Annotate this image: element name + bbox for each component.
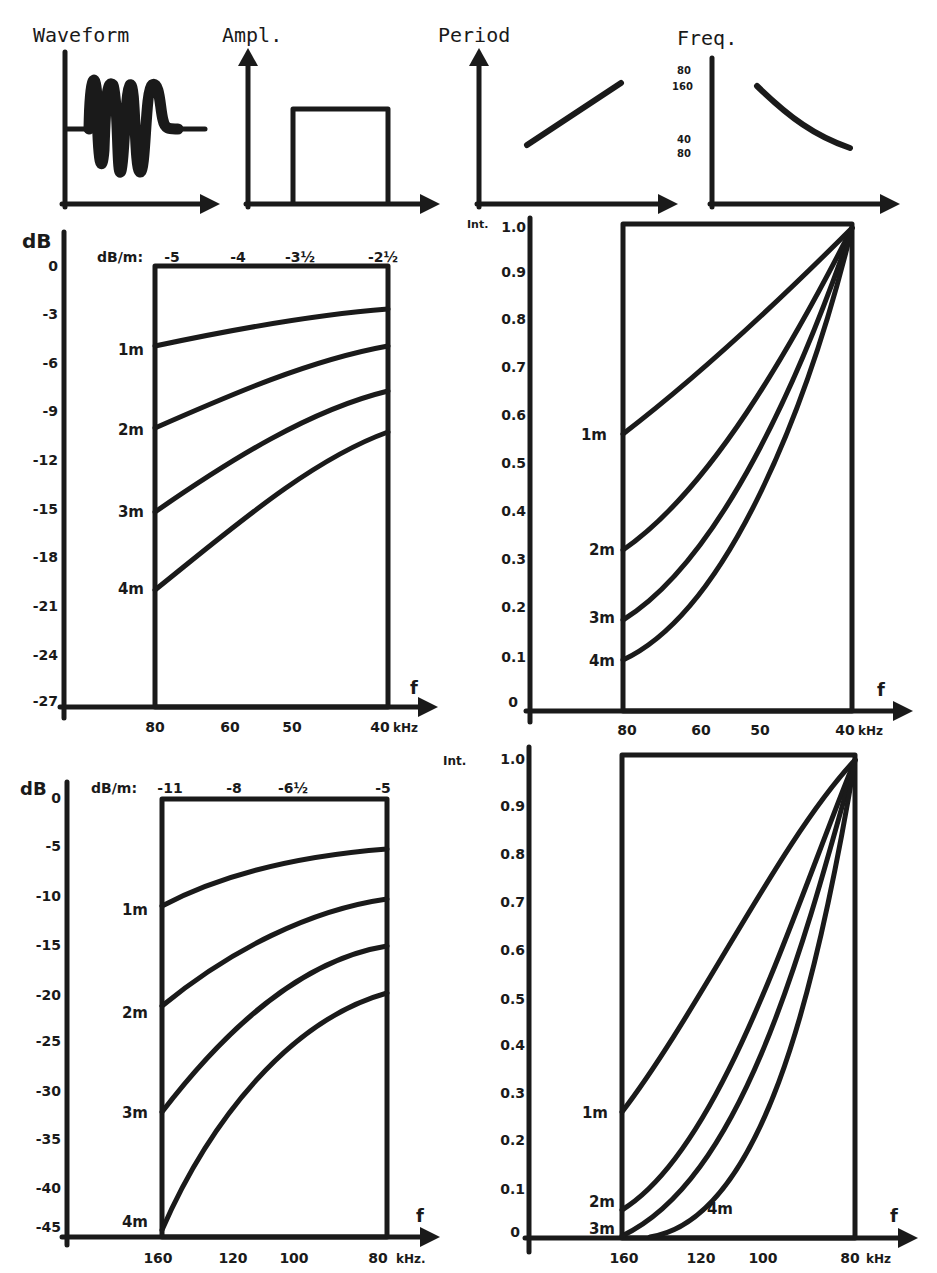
svg-text:4m: 4m [122,1213,148,1231]
svg-text:1m: 1m [582,1104,608,1122]
freq-tick-lower-2: 80 [677,148,691,159]
db2-curve-4m [162,993,387,1230]
period-sketch: Period [438,23,678,214]
svg-text:0.5: 0.5 [501,455,526,471]
svg-text:-27: -27 [33,693,58,709]
svg-text:-3: -3 [42,306,58,322]
svg-text:0: 0 [51,790,61,806]
db1-curve-3m [155,391,388,512]
svg-text:0.7: 0.7 [500,894,525,910]
svg-text:0.6: 0.6 [500,942,525,958]
svg-text:0.4: 0.4 [500,1037,525,1053]
svg-text:-35: -35 [36,1131,61,1147]
svg-text:0.4: 0.4 [501,503,526,519]
svg-text:120: 120 [686,1250,715,1266]
db2-xunit: kHz. [396,1252,426,1266]
int1-curve-1m [623,228,852,434]
svg-text:-20: -20 [36,987,62,1003]
db1-top-axis-label: dB/m: [97,249,143,265]
int1-curve-2m [623,228,852,550]
db-chart-80-40: dB 0 -3 -6 -9 -12 -15 -18 -21 -24 -27 dB… [22,229,438,735]
svg-text:-11: -11 [157,780,182,796]
db2-curve-3m [162,946,387,1112]
svg-text:0.2: 0.2 [501,599,526,615]
freq-curve [757,86,850,148]
db-chart-160-80: dB 0 -5 -10 -15 -20 -25 -30 -35 -40 -45 … [20,778,440,1266]
svg-text:2m: 2m [122,1004,148,1022]
int1-xunit: kHz [858,724,883,738]
svg-text:0.1: 0.1 [500,1181,525,1197]
period-y-arrow-icon [469,48,489,66]
svg-text:-5: -5 [164,249,180,265]
ampl-envelope [293,109,388,204]
svg-text:160: 160 [609,1250,638,1266]
int2-xticks: 160 120 100 80 [609,1250,860,1266]
int-chart-80-40: Int. 1.0 0.9 0.8 0.7 0.6 0.5 0.4 0.3 0.2… [467,218,913,738]
svg-text:80: 80 [617,722,637,738]
int2-curve-labels: 1m 2m 3m 4m [582,1104,733,1238]
ampl-y-arrow-icon [238,48,258,66]
period-title: Period [438,23,510,47]
svg-text:1m: 1m [581,426,607,444]
svg-text:50: 50 [282,719,302,735]
int1-xlabel: f [877,679,885,700]
svg-text:2m: 2m [589,541,615,559]
amplitude-sketch: Ampl. [222,23,440,214]
svg-text:80: 80 [840,1250,860,1266]
svg-text:3m: 3m [589,609,615,627]
svg-text:-24: -24 [33,647,59,663]
svg-text:0: 0 [510,1224,520,1240]
svg-text:-6: -6 [42,355,58,371]
svg-text:-12: -12 [33,452,58,468]
svg-text:0.9: 0.9 [500,798,525,814]
waveform-x-arrow-icon [200,194,220,214]
figure-canvas: Waveform Ampl. Period Freq. 80 160 40 80 [0,0,937,1273]
svg-text:4m: 4m [589,652,615,670]
int2-xunit: kHz [866,1252,891,1266]
period-x-arrow-icon [658,194,678,214]
db1-top-ticks: -5 -4 -3½ -2½ [164,249,398,265]
svg-text:-2½: -2½ [368,249,398,265]
svg-text:4m: 4m [707,1200,733,1218]
waveform-signal [89,80,178,172]
freq-title: Freq. [677,26,737,50]
db2-yticks: 0 -5 -10 -15 -20 -25 -30 -35 -40 -45 [36,790,62,1235]
svg-text:0.9: 0.9 [501,264,526,280]
int1-curve-labels: 1m 2m 3m 4m [581,426,615,670]
period-line [527,83,621,145]
int2-xlabel: f [890,1205,898,1226]
db1-xunit: kHz [393,721,418,735]
svg-text:0.7: 0.7 [501,359,526,375]
svg-text:0.3: 0.3 [501,551,526,567]
svg-text:100: 100 [279,1250,308,1266]
freq-tick-upper-1: 80 [677,65,691,76]
svg-text:2m: 2m [589,1193,615,1211]
db1-xlabel: f [410,677,418,698]
ampl-title: Ampl. [222,23,282,47]
svg-text:1.0: 1.0 [500,751,525,767]
int-chart-160-80: Int. 1.0 0.9 0.8 0.7 0.6 0.5 0.4 0.3 0.2… [443,747,918,1266]
db2-top-axis-label: dB/m: [91,780,137,796]
freq-tick-lower-1: 40 [677,134,691,145]
svg-text:0: 0 [48,258,58,274]
db1-curve-labels: 1m 2m 3m 4m [118,341,144,598]
int2-curve-2m [622,760,855,1210]
int1-ylabel: Int. [467,218,488,231]
int2-yticks: 1.0 0.9 0.8 0.7 0.6 0.5 0.4 0.3 0.2 0.1 … [500,751,525,1240]
db1-curve-2m [155,346,388,428]
svg-text:1.0: 1.0 [501,219,526,235]
svg-text:1m: 1m [118,341,144,359]
int2-x-arrow-icon [898,1228,918,1248]
svg-text:-40: -40 [36,1180,62,1196]
svg-text:3m: 3m [118,503,144,521]
svg-text:-18: -18 [33,549,58,565]
db2-x-arrow-icon [420,1227,440,1247]
svg-text:40: 40 [835,722,855,738]
db1-curve-1m [155,309,388,346]
svg-text:0.3: 0.3 [500,1085,525,1101]
svg-text:-5: -5 [45,838,61,854]
svg-text:3m: 3m [589,1220,615,1238]
svg-text:120: 120 [218,1250,247,1266]
svg-text:2m: 2m [118,421,144,439]
svg-text:80: 80 [368,1250,388,1266]
